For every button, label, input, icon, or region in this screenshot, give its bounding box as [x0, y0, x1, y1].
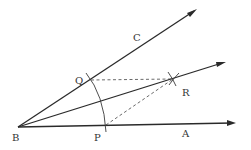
- arrowhead-icon: [187, 9, 197, 17]
- segment-PR: [106, 79, 173, 125]
- angle-bisector-diagram: B P Q R A C: [0, 0, 251, 150]
- arrowhead-icon: [216, 62, 226, 67]
- label-C: C: [133, 32, 141, 43]
- label-Q: Q: [75, 75, 83, 86]
- label-R: R: [182, 87, 190, 98]
- ray-BR: [18, 62, 226, 127]
- arrowhead-icon: [227, 120, 236, 126]
- label-A: A: [181, 128, 190, 139]
- ray-BC: [18, 9, 197, 127]
- label-B: B: [12, 132, 19, 143]
- label-P: P: [94, 132, 101, 143]
- ray-BA: [18, 120, 236, 127]
- segment-QR: [91, 79, 173, 80]
